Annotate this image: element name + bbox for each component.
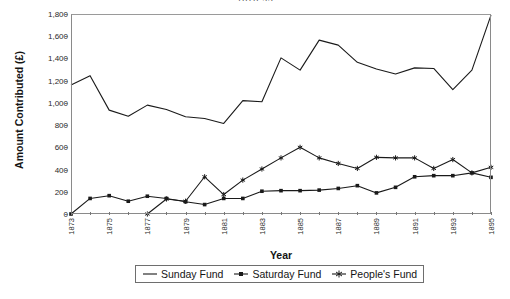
legend-label: Saturday Fund (252, 268, 321, 280)
data-point-marker (146, 194, 150, 198)
x-tick-mark (262, 212, 263, 215)
x-tick-mark (186, 212, 187, 215)
data-point-marker (298, 189, 302, 193)
x-tick-label: 1875 (105, 218, 114, 235)
x-tick-mark (166, 212, 167, 215)
x-tick-mark (128, 212, 129, 215)
series-layer (71, 14, 491, 214)
data-point-marker (88, 197, 92, 201)
x-tick-label: 1889 (372, 218, 381, 235)
x-tick-label: 1879 (182, 218, 191, 235)
y-tick-label: 600 (24, 143, 68, 152)
data-point-marker (317, 188, 321, 192)
data-point-marker (432, 174, 436, 178)
x-tick-mark (472, 212, 473, 215)
x-tick-label: 1895 (487, 218, 496, 235)
x-tick-label: 1891 (411, 218, 420, 235)
x-tick-mark (434, 212, 435, 215)
data-point-marker (279, 189, 283, 193)
y-tick-mark (65, 147, 68, 148)
data-point-marker (107, 194, 111, 198)
chart-page: 1873-95 Amount Contributed (£) 020040060… (0, 0, 510, 299)
x-tick-label: 1873 (67, 218, 76, 235)
data-point-marker (279, 155, 284, 160)
data-point-marker (241, 197, 245, 201)
data-point-marker (203, 203, 207, 207)
y-tick-label: 1,600 (24, 32, 68, 41)
legend-item[interactable]: Sunday Fund (142, 268, 223, 280)
legend-item[interactable]: People's Fund (331, 268, 417, 280)
x-tick-label: 1877 (143, 218, 152, 235)
legend-square-icon (233, 269, 249, 279)
data-point-marker (375, 191, 379, 195)
legend-label: People's Fund (350, 268, 417, 280)
y-tick-mark (65, 192, 68, 193)
x-tick-mark (396, 212, 397, 215)
x-tick-mark (205, 212, 206, 215)
y-tick-label: 1,400 (24, 54, 68, 63)
x-tick-mark (376, 212, 377, 215)
y-tick-label: 800 (24, 121, 68, 130)
y-tick-mark (65, 58, 68, 59)
x-tick-mark (338, 212, 339, 215)
data-point-marker (451, 157, 456, 162)
data-point-marker (298, 145, 303, 150)
y-tick-mark (65, 36, 68, 37)
data-point-marker (356, 184, 360, 188)
x-tick-label: 1893 (449, 218, 458, 235)
y-tick-label: 1,200 (24, 76, 68, 85)
data-point-marker (222, 197, 226, 201)
x-tick-mark (319, 212, 320, 215)
y-tick-mark (65, 81, 68, 82)
legend-label: Sunday Fund (161, 268, 223, 280)
x-tick-mark (243, 212, 244, 215)
data-point-marker (260, 166, 265, 171)
data-point-marker (126, 199, 130, 203)
x-tick-mark (491, 212, 492, 215)
x-tick-mark (224, 212, 225, 215)
x-axis-tick-labels: 1873187518771879188118831885188718891891… (71, 215, 491, 249)
data-point-marker (260, 189, 264, 193)
x-tick-label: 1885 (296, 218, 305, 235)
y-tick-mark (65, 103, 68, 104)
chart-title: 1873-95 (0, 0, 510, 1)
data-point-marker (489, 176, 493, 180)
y-tick-mark (65, 14, 68, 15)
x-tick-mark (71, 212, 72, 215)
y-tick-mark (65, 170, 68, 171)
series-line-saturday-fund (71, 173, 491, 214)
data-point-marker (451, 174, 455, 178)
y-tick-label: 1,000 (24, 98, 68, 107)
x-tick-mark (300, 212, 301, 215)
y-tick-label: 0 (24, 210, 68, 219)
data-point-marker (394, 186, 398, 190)
y-tick-mark (65, 125, 68, 126)
x-axis-title: Year (71, 249, 491, 261)
series-line-sunday-fund (71, 15, 491, 123)
y-tick-mark (65, 214, 68, 215)
plot-area (71, 14, 491, 214)
x-tick-mark (90, 212, 91, 215)
x-tick-mark (109, 212, 110, 215)
x-tick-mark (357, 212, 358, 215)
x-tick-label: 1883 (258, 218, 267, 235)
chart-legend: Sunday FundSaturday FundPeople's Fund (135, 265, 424, 283)
data-point-marker (336, 187, 340, 191)
x-tick-mark (415, 212, 416, 215)
y-tick-label: 1,800 (24, 10, 68, 19)
data-point-marker (413, 175, 417, 179)
y-tick-label: 400 (24, 165, 68, 174)
data-point-marker (431, 166, 436, 171)
legend-line-icon (142, 269, 158, 279)
x-tick-mark (453, 212, 454, 215)
y-tick-label: 200 (24, 187, 68, 196)
legend-star-icon (331, 269, 347, 279)
x-tick-label: 1887 (334, 218, 343, 235)
x-tick-mark (147, 212, 148, 215)
y-axis-tick-labels: 02004006008001,0001,2001,4001,6001,800 (20, 14, 68, 214)
legend-item[interactable]: Saturday Fund (233, 268, 321, 280)
x-tick-mark (281, 212, 282, 215)
x-tick-label: 1881 (220, 218, 229, 235)
